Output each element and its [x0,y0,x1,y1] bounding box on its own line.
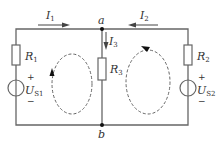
node-label-a: a [98,15,105,26]
node-label-b: b [98,129,105,140]
resistor-r1 [12,45,20,65]
us2-minus-sign: − [198,97,206,106]
us2-plus-sign: + [198,73,206,82]
voltage-source-us1 [8,80,24,96]
resistor-label-r3: R3 [110,64,123,77]
right-mesh-loop [126,50,170,114]
current-label-i2: I2 [140,10,149,23]
resistor-r3 [98,58,106,80]
us1-minus-sign: − [27,97,35,106]
resistor-label-r2: R2 [197,51,210,64]
voltage-source-us2 [180,80,196,96]
us1-plus-sign: + [27,73,35,82]
arrow-left-icon [128,23,158,28]
resistor-label-r1: R1 [25,51,38,64]
arrow-right-icon [38,23,70,28]
left-mesh-loop [52,54,92,114]
resistor-r2 [184,45,192,65]
node-a-dot [100,27,104,31]
current-label-i1: I1 [46,10,55,23]
arrow-down-icon [104,32,109,50]
node-b-dot [100,123,104,127]
current-label-i3: I3 [109,36,118,49]
